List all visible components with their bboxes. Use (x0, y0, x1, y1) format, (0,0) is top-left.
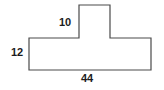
dimension-label-top: 10 (59, 17, 71, 28)
dimension-label-left: 12 (11, 47, 23, 58)
geometry-figure: 10 12 44 (0, 0, 164, 90)
dimension-label-bottom: 44 (81, 73, 93, 84)
